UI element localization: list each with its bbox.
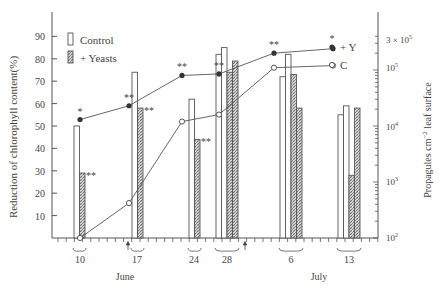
date-brace: [279, 248, 303, 251]
date-brace: [188, 248, 201, 251]
arrow-up-icon: [243, 242, 246, 251]
date-brace: [73, 248, 86, 251]
significance-mark: **: [144, 105, 154, 116]
filled-marker: [77, 117, 82, 122]
legend: Control + Yeasts * + Y C: [68, 33, 357, 71]
date-brace: [337, 248, 361, 251]
left-tick-label: 70: [35, 76, 45, 87]
yeasts-bar: [233, 61, 239, 238]
legend-yeasts-label: + Yeasts: [80, 52, 117, 64]
significance-mark: **: [269, 39, 279, 50]
legend-c-label: C: [340, 59, 347, 71]
yeasts-bar: [227, 72, 233, 238]
arrow-up-icon: [126, 242, 129, 251]
legend-control-swatch: [68, 33, 73, 45]
date-label: 24: [189, 254, 199, 265]
left-tick-label: 30: [35, 166, 45, 177]
control-bar: [222, 48, 228, 238]
date-label: 17: [132, 254, 142, 265]
control-bar: [216, 54, 222, 238]
significance-mark: **: [177, 61, 187, 72]
arrow-markers: [126, 242, 246, 251]
left-y-ticks: 908070605040302010: [35, 31, 57, 221]
legend-control-label: Control: [80, 34, 114, 46]
open-marker: [126, 200, 131, 205]
yeasts-bar: [195, 139, 201, 238]
significance-mark: *: [78, 106, 83, 117]
legend-plus-y-label: + Y: [340, 41, 357, 53]
left-tick-label: 10: [35, 211, 45, 222]
control-bar: [286, 54, 292, 238]
date-label: 6: [289, 254, 294, 265]
yeasts-bar: [297, 108, 303, 238]
control-bar: [280, 77, 286, 238]
significance-mark: **: [86, 170, 96, 181]
open-marker: [271, 65, 276, 70]
right-tick-label: 102: [386, 232, 398, 243]
left-tick-label: 50: [35, 121, 45, 132]
date-brace: [215, 248, 239, 251]
control-bar: [344, 106, 350, 238]
chart: 908070605040302010 3 × 105105104103102 R…: [0, 0, 439, 288]
yeasts-bar: [80, 173, 86, 238]
open-marker: [179, 119, 184, 124]
month-label: July: [311, 271, 328, 282]
control-bar: [74, 126, 80, 238]
significance-mark: **: [124, 92, 134, 103]
right-y-ticks: 3 × 105105104103102: [373, 34, 412, 243]
right-tick-label: 3 × 105: [386, 34, 412, 45]
significance-mark: **: [201, 136, 211, 147]
left-tick-label: 60: [35, 99, 45, 110]
bar-series: [74, 48, 360, 238]
date-label: 10: [75, 254, 85, 265]
yeasts-bar: [349, 175, 355, 238]
legend-yeasts-swatch: [68, 51, 73, 63]
x-axis-ticks: [58, 238, 378, 242]
date-label: 28: [222, 254, 232, 265]
legend-plus-y-marker: [329, 44, 334, 49]
legend-star: *: [330, 33, 335, 44]
left-tick-label: 90: [35, 31, 45, 42]
date-label: 13: [344, 254, 354, 265]
left-y-axis-label: Reduction of chlorophyll content(%): [7, 56, 20, 219]
yeasts-bar: [138, 108, 144, 238]
right-tick-label: 104: [386, 121, 398, 132]
legend-c-marker: [329, 62, 334, 67]
left-tick-label: 20: [35, 188, 45, 199]
open-marker: [77, 235, 82, 240]
filled-marker: [179, 73, 184, 78]
month-label: June: [116, 271, 135, 282]
yeasts-bar: [291, 74, 297, 238]
date-labels: 10172428613JuneJuly: [73, 248, 361, 282]
left-tick-label: 80: [35, 54, 45, 65]
filled-marker: [126, 103, 131, 108]
control-bar: [338, 115, 344, 238]
yeasts-bar: [355, 108, 361, 238]
filled-marker: [216, 71, 221, 76]
significance-mark: **: [214, 60, 224, 71]
filled-marker: [271, 51, 276, 56]
date-brace: [131, 248, 144, 251]
left-tick-label: 40: [35, 143, 45, 154]
right-tick-label: 105: [386, 62, 398, 73]
right-tick-label: 103: [386, 176, 398, 187]
open-marker: [216, 112, 221, 117]
right-y-axis-label: Propagules cm−2 leaf surface: [421, 82, 433, 198]
